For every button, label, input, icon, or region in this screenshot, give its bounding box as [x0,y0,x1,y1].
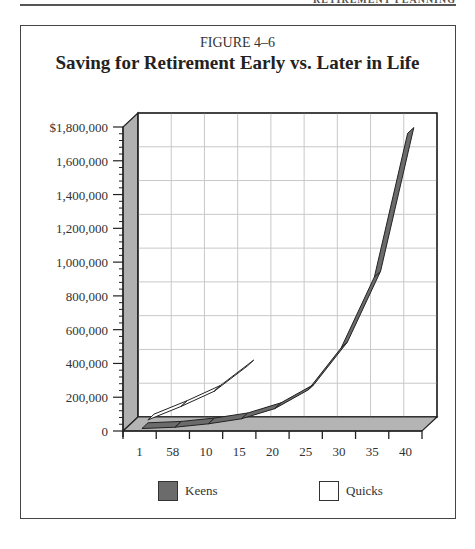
chart-area: 0200,000400,000600,000800,0001,000,0001,… [0,0,475,549]
legend-label-keens: Keens [185,483,218,499]
y-tick-label: 1,000,000 [56,255,108,270]
y-tick-label: 800,000 [66,289,108,304]
legend: Keens Quicks [0,481,475,505]
y-tick-label: 0 [102,424,109,439]
back-wall [138,113,437,417]
quicks-swatch-icon [319,481,339,501]
keens-swatch-icon [158,481,178,501]
x-tick-label: 30 [332,444,345,459]
x-tick-label: 35 [366,444,379,459]
legend-item-keens: Keens [158,481,218,501]
x-tick-label: 1 [136,444,143,459]
y-tick-label: 600,000 [66,323,108,338]
legend-label-quicks: Quicks [346,483,383,499]
y-tick-label: 200,000 [66,390,108,405]
x-tick-label: 20 [266,444,279,459]
y-tick-label: $1,800,000 [50,120,109,135]
y-tick-label: 400,000 [66,356,108,371]
x-tick-label: 15 [233,444,246,459]
x-tick-label: 58 [166,444,179,459]
y-tick-label: 1,200,000 [56,221,108,236]
y-tick-label: 1,600,000 [56,154,108,169]
side-wall [123,113,138,431]
x-tick-label: 10 [200,444,213,459]
legend-item-quicks: Quicks [319,481,383,501]
x-tick-label: 40 [399,444,412,459]
x-tick-label: 25 [299,444,312,459]
y-tick-label: 1,400,000 [56,188,108,203]
